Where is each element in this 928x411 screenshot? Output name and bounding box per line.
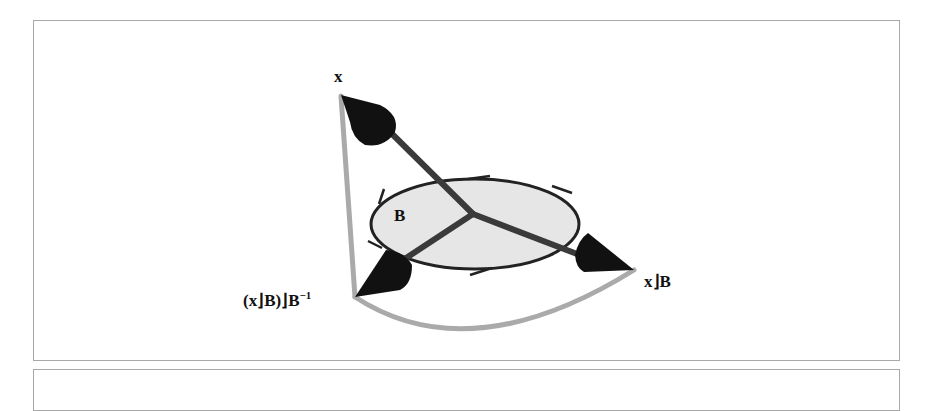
label-projection-base: (x⌋B)⌋B (243, 291, 300, 310)
label-projection-exponent: −1 (300, 289, 312, 301)
label-projection: (x⌋B)⌋B−1 (243, 290, 311, 309)
label-x: x (334, 68, 343, 85)
arrowhead-projection (355, 250, 412, 297)
arrowhead-x (341, 95, 396, 145)
label-bivector-b: B (394, 207, 405, 224)
label-contraction: x⌋B (644, 273, 671, 290)
arrowhead-contraction (575, 233, 634, 272)
